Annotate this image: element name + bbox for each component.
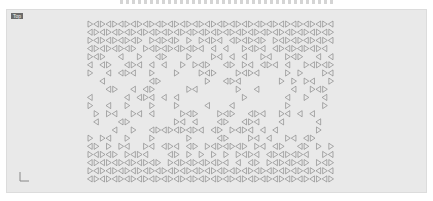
cad-viewport[interactable]: Top	[6, 9, 427, 193]
viewport-label[interactable]: Top	[11, 13, 23, 19]
cropped-title-text	[120, 0, 335, 4]
triangle-pattern	[87, 20, 334, 183]
ucs-axis-icon	[17, 170, 31, 184]
